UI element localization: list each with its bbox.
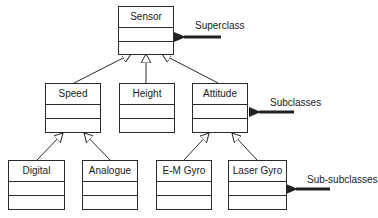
class-em-gyro: E-M Gyro (156, 160, 212, 210)
class-speed: Speed (45, 83, 101, 133)
class-height: Height (119, 83, 175, 133)
operations-compartment (83, 196, 137, 210)
operations-compartment (229, 196, 286, 210)
operations-compartment (46, 119, 100, 133)
inheritance-digital-speed (37, 133, 63, 160)
class-digital: Digital (8, 160, 65, 210)
operations-compartment (119, 42, 173, 56)
class-name: Digital (9, 161, 64, 182)
class-analogue: Analogue (82, 160, 138, 210)
operations-compartment (193, 119, 247, 133)
class-attitude: Attitude (192, 83, 248, 133)
attributes-compartment (229, 182, 286, 196)
subclasses-label: Subclasses (270, 97, 321, 108)
attributes-compartment (120, 105, 174, 119)
operations-compartment (9, 196, 64, 210)
operations-compartment (157, 196, 211, 210)
class-name: Sensor (119, 7, 173, 28)
class-name: Speed (46, 84, 100, 105)
inheritance-analogue-speed (84, 133, 110, 160)
inheritance-speed-sensor (74, 54, 131, 83)
class-name: Analogue (83, 161, 137, 182)
inheritance-emgyro-attitude (184, 133, 209, 160)
attributes-compartment (119, 28, 173, 42)
operations-compartment (120, 119, 174, 133)
superclass-label: Superclass (195, 20, 244, 31)
inheritance-attitude-sensor (162, 54, 218, 83)
class-name: Height (120, 84, 174, 105)
attributes-compartment (193, 105, 247, 119)
class-laser-gyro: Laser Gyro (228, 160, 287, 210)
class-name: Laser Gyro (229, 161, 286, 182)
class-name: Attitude (193, 84, 247, 105)
attributes-compartment (46, 105, 100, 119)
class-sensor: Sensor (118, 6, 174, 55)
class-name: E-M Gyro (157, 161, 211, 182)
attributes-compartment (83, 182, 137, 196)
attributes-compartment (9, 182, 64, 196)
inheritance-lasergyro-attitude (232, 133, 257, 160)
subsubclasses-label: Sub-subclasses (307, 174, 378, 185)
attributes-compartment (157, 182, 211, 196)
